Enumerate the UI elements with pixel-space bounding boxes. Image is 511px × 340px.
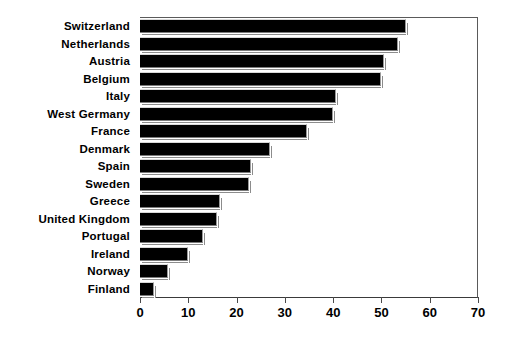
category-label: Denmark <box>0 141 135 159</box>
x-axis-tick <box>478 297 479 303</box>
bar-row <box>140 88 477 106</box>
x-axis-tick-label: 60 <box>422 305 436 320</box>
category-label: Sweden <box>0 176 135 194</box>
bar <box>140 194 220 208</box>
x-axis-tick-label: 30 <box>278 305 292 320</box>
x-axis-tick-label: 20 <box>229 305 243 320</box>
bar-row <box>140 141 477 159</box>
x-axis-tick <box>381 297 382 303</box>
bar-row <box>140 106 477 124</box>
bar-row <box>140 158 477 176</box>
category-label: Portugal <box>0 228 135 246</box>
category-label: Austria <box>0 53 135 71</box>
bar-row <box>140 53 477 71</box>
bar <box>140 19 406 33</box>
bar-row <box>140 36 477 54</box>
bar-series <box>140 18 477 297</box>
category-label: United Kingdom <box>0 211 135 229</box>
bar-row <box>140 18 477 36</box>
bar-row <box>140 228 477 246</box>
bar <box>140 177 249 191</box>
bar-row <box>140 246 477 264</box>
x-axis-tick-label: 40 <box>326 305 340 320</box>
x-axis-tick <box>188 297 189 303</box>
bar <box>140 72 381 86</box>
bar <box>140 159 251 173</box>
bar-row <box>140 71 477 89</box>
bar <box>140 229 203 243</box>
bar <box>140 54 384 68</box>
category-label: Netherlands <box>0 36 135 54</box>
plot-area <box>140 17 478 298</box>
x-axis-tick <box>140 297 141 303</box>
category-label: Norway <box>0 263 135 281</box>
bar-row <box>140 123 477 141</box>
x-axis-tick <box>430 297 431 303</box>
bar <box>140 264 168 278</box>
x-axis-tick-label: 50 <box>374 305 388 320</box>
x-axis-tick <box>285 297 286 303</box>
bar <box>140 37 398 51</box>
bar-row <box>140 211 477 229</box>
x-axis-tick <box>333 297 334 303</box>
category-label: Greece <box>0 193 135 211</box>
x-axis-tick-label: 0 <box>136 305 143 320</box>
category-label: Ireland <box>0 246 135 264</box>
bar <box>140 89 336 103</box>
category-axis-labels: SwitzerlandNetherlandsAustriaBelgiumItal… <box>0 18 135 298</box>
category-label: West Germany <box>0 106 135 124</box>
category-label: Spain <box>0 158 135 176</box>
bar-row <box>140 281 477 299</box>
bar-row <box>140 176 477 194</box>
bar <box>140 124 307 138</box>
bar <box>140 107 333 121</box>
x-axis-tick-label: 70 <box>471 305 485 320</box>
x-axis-tick-label: 10 <box>181 305 195 320</box>
category-label: Finland <box>0 281 135 299</box>
x-axis-tick <box>237 297 238 303</box>
bar <box>140 247 188 261</box>
category-label: France <box>0 123 135 141</box>
bar-row <box>140 193 477 211</box>
category-label: Belgium <box>0 71 135 89</box>
bar-row <box>140 263 477 281</box>
category-label: Italy <box>0 88 135 106</box>
bar-chart: SwitzerlandNetherlandsAustriaBelgiumItal… <box>0 0 511 340</box>
x-axis: 010203040506070 <box>140 297 478 337</box>
bar <box>140 142 270 156</box>
bar <box>140 282 154 296</box>
bar <box>140 212 217 226</box>
category-label: Switzerland <box>0 18 135 36</box>
